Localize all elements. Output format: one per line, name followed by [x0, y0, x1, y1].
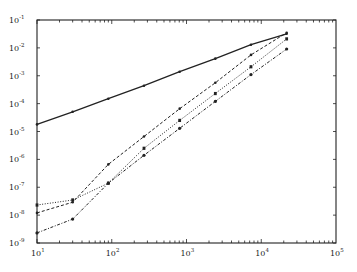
x-tick-label: 101: [31, 247, 45, 258]
data-point-marker: [178, 127, 181, 130]
y-tick-label: 10-6: [9, 153, 25, 164]
y-tick-label: 10-4: [9, 98, 25, 109]
y-tick-label: 10-9: [9, 237, 25, 248]
data-point-marker: [285, 37, 288, 40]
series-dashed: [36, 31, 288, 214]
data-point-marker: [285, 31, 288, 34]
y-tick-label: 10-1: [9, 14, 25, 25]
y-tick-label: 10-2: [9, 42, 25, 53]
x-tick-label: 104: [255, 247, 269, 258]
data-point-marker: [249, 73, 252, 76]
data-point-marker: [71, 218, 74, 221]
data-point-marker: [142, 154, 145, 157]
data-point-marker: [71, 110, 74, 113]
data-point-marker: [214, 81, 217, 84]
data-point-marker: [107, 163, 110, 166]
data-point-marker: [35, 231, 38, 234]
x-axis-tick-labels: 101102103104105: [31, 247, 344, 258]
data-point-marker: [107, 182, 110, 185]
y-tick-label: 10-3: [9, 70, 25, 81]
data-point-marker: [36, 123, 39, 126]
data-point-marker: [214, 92, 217, 95]
data-point-marker: [178, 119, 181, 122]
data-point-marker: [143, 84, 146, 87]
data-point-marker: [107, 97, 110, 100]
data-point-marker: [178, 107, 181, 110]
data-point-marker: [250, 65, 253, 68]
data-point-marker: [285, 47, 288, 50]
log-log-line-chart: 101102103104105 10-110-210-310-410-510-6…: [0, 0, 357, 272]
series-dotted: [36, 37, 288, 206]
data-point-marker: [36, 203, 39, 206]
x-tick-label: 102: [106, 247, 120, 258]
data-point-marker: [143, 135, 146, 138]
series-solid: [36, 32, 288, 125]
data-point-marker: [214, 100, 217, 103]
data-point-marker: [250, 54, 253, 57]
y-tick-label: 10-7: [9, 181, 25, 192]
data-point-marker: [250, 43, 253, 46]
data-series: [35, 31, 288, 234]
data-point-marker: [178, 70, 181, 73]
y-axis-tick-labels: 10-110-210-310-410-510-610-710-810-9: [9, 14, 25, 248]
data-point-marker: [71, 198, 74, 201]
series-dash-dot: [35, 47, 288, 234]
x-tick-label: 105: [330, 247, 344, 258]
data-point-marker: [36, 212, 39, 215]
data-point-marker: [214, 57, 217, 60]
x-tick-label: 103: [181, 247, 195, 258]
y-tick-label: 10-5: [9, 126, 25, 137]
y-tick-label: 10-8: [9, 209, 25, 220]
data-point-marker: [143, 147, 146, 150]
